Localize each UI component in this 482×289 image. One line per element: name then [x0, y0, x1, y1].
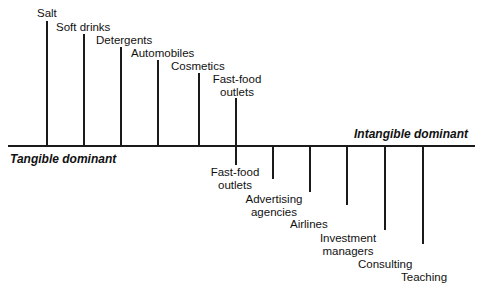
- label-line-1: Investment: [318, 232, 378, 245]
- label-line-1: Advertising: [242, 193, 306, 206]
- advertising-agencies-line: [272, 146, 274, 179]
- label-line-1: Fast-food: [206, 166, 264, 179]
- item-label-soft-drinks: Soft drinks: [56, 21, 110, 34]
- soft-drinks-line: [83, 34, 85, 146]
- detergents-line: [120, 47, 122, 146]
- automobiles-line: [157, 60, 159, 146]
- airlines-line: [309, 146, 311, 192]
- item-label-detergents: Detergents: [96, 34, 152, 47]
- item-label-teaching: Teaching: [401, 271, 447, 284]
- tangibility-spectrum-diagram: Tangible dominant Intangible dominant Sa…: [0, 0, 482, 289]
- item-label-salt: Salt: [37, 7, 57, 20]
- label-line-2: outlets: [206, 179, 264, 192]
- item-label-airlines: Airlines: [290, 218, 328, 231]
- intangible-dominant-label: Intangible dominant: [354, 127, 468, 141]
- item-label-consulting: Consulting: [358, 258, 412, 271]
- item-label-fast-food-lower: Fast-food outlets: [206, 166, 264, 192]
- cosmetics-line: [198, 73, 200, 146]
- consulting-line: [384, 146, 386, 230]
- label-line-2: outlets: [209, 86, 265, 99]
- item-label-automobiles: Automobiles: [131, 47, 194, 60]
- investment-managers-line: [346, 146, 348, 205]
- salt-line: [46, 21, 48, 146]
- fast-food-outlets-line: [235, 98, 237, 165]
- label-line-2: managers: [318, 245, 378, 258]
- teaching-line: [422, 146, 424, 244]
- tangible-dominant-label: Tangible dominant: [10, 152, 116, 166]
- label-line-1: Fast-food: [209, 73, 265, 86]
- item-label-investment-managers: Investment managers: [318, 232, 378, 258]
- spectrum-axis: [8, 145, 475, 147]
- item-label-cosmetics: Cosmetics: [171, 60, 225, 73]
- item-label-fast-food-upper: Fast-food outlets: [209, 73, 265, 99]
- item-label-advertising-agencies: Advertising agencies: [242, 193, 306, 219]
